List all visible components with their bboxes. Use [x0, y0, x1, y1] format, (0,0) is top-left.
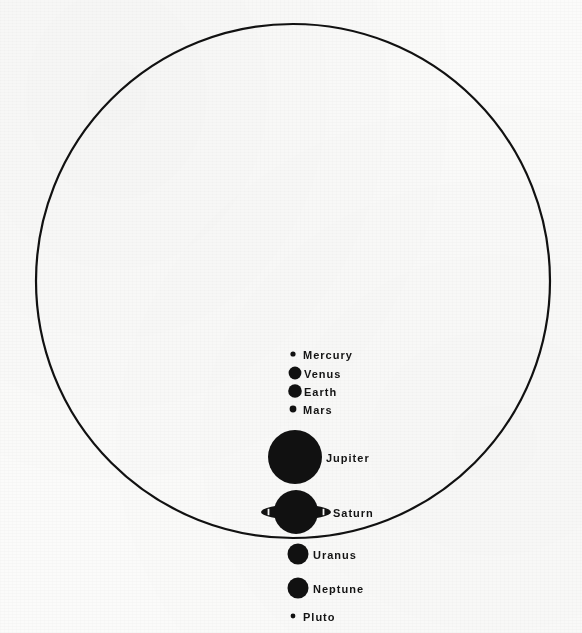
planet-disc-mercury: [290, 351, 295, 356]
planet-glyph-mercury: [290, 351, 295, 356]
planet-label-uranus: Uranus: [313, 550, 357, 561]
planet-disc-uranus: [288, 544, 309, 565]
planet-glyph-saturn: [261, 490, 331, 534]
planet-label-neptune: Neptune: [313, 584, 364, 595]
figure-page: MercuryVenusEarthMarsJupiterSaturnUranus…: [0, 0, 582, 633]
planet-label-mercury: Mercury: [303, 350, 353, 361]
planet-glyph-jupiter: [268, 430, 322, 484]
planet-disc-venus: [289, 367, 302, 380]
planet-glyph-earth: [288, 384, 302, 398]
saturn-body-circle: [274, 490, 318, 534]
planet-disc-earth: [288, 384, 302, 398]
planet-glyph-pluto: [291, 614, 296, 619]
planet-label-saturn: Saturn: [333, 508, 374, 519]
planet-disc-jupiter: [268, 430, 322, 484]
planet-disc-neptune: [288, 578, 309, 599]
saturn-ring-gap-notch: [268, 509, 270, 515]
planet-disc-mars: [290, 406, 297, 413]
planet-label-jupiter: Jupiter: [326, 453, 370, 464]
planet-label-mars: Mars: [303, 405, 333, 416]
planet-glyph-venus: [289, 367, 302, 380]
planet-label-pluto: Pluto: [303, 612, 336, 623]
planet-disc-pluto: [291, 614, 296, 619]
planet-glyph-uranus: [288, 544, 309, 565]
planet-glyph-mars: [290, 406, 297, 413]
planet-label-earth: Earth: [304, 387, 337, 398]
planet-glyph-neptune: [288, 578, 309, 599]
planet-label-venus: Venus: [304, 369, 341, 380]
solar-system-scale-diagram: [0, 0, 582, 633]
saturn-ring-gap-notch: [323, 509, 325, 515]
